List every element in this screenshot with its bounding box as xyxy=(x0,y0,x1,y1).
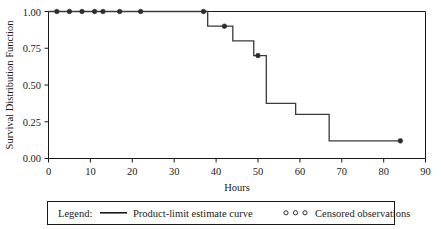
legend-label: Legend: xyxy=(58,208,92,219)
x-axis-ticks: 0 10 20 30 40 50 60 70 80 90 xyxy=(46,159,431,178)
censored-observation-marker xyxy=(222,24,227,29)
censored-observation-marker xyxy=(80,9,85,14)
x-tick-label-20: 20 xyxy=(127,166,138,177)
legend-censored-entry: Censored observations xyxy=(315,208,410,219)
x-tick-label-70: 70 xyxy=(337,166,348,177)
y-tick-label-075: 0.75 xyxy=(23,43,41,54)
censored-observation-marker xyxy=(117,9,122,14)
censored-observation-marker xyxy=(138,9,143,14)
legend-censor-circle-icon xyxy=(284,211,288,215)
y-axis-title: Survival Distribution Function xyxy=(4,20,15,150)
x-tick-label-30: 30 xyxy=(169,166,180,177)
x-tick-label-40: 40 xyxy=(211,166,222,177)
x-tick-label-10: 10 xyxy=(85,166,96,177)
x-tick-label-60: 60 xyxy=(295,166,306,177)
y-tick-label-100: 1.00 xyxy=(23,7,41,18)
censored-observation-marker xyxy=(101,9,106,14)
y-axis-ticks: 1.00 0.75 0.50 0.25 0.00 xyxy=(23,7,49,165)
censored-observation-markers xyxy=(55,9,403,143)
x-tick-label-50: 50 xyxy=(253,166,264,177)
legend-censor-circle-icon xyxy=(303,211,307,215)
y-tick-label-000: 0.00 xyxy=(23,153,41,164)
plot-frame xyxy=(49,12,426,159)
legend-censor-circle-icon xyxy=(293,211,297,215)
x-axis-title: Hours xyxy=(224,182,250,193)
legend-curve-entry: Product-limit estimate curve xyxy=(133,208,253,219)
censored-observation-marker xyxy=(55,9,60,14)
chart-canvas: 1.00 0.75 0.50 0.25 0.00 0 10 20 30 40 5… xyxy=(0,0,441,229)
survival-curve-figure: 1.00 0.75 0.50 0.25 0.00 0 10 20 30 40 5… xyxy=(0,0,441,229)
censored-observation-marker xyxy=(201,9,206,14)
chart-legend: Legend: Product-limit estimate curve Cen… xyxy=(48,202,411,225)
y-tick-label-025: 0.25 xyxy=(23,117,41,128)
censored-observation-marker xyxy=(256,53,261,58)
x-tick-label-90: 90 xyxy=(420,166,431,177)
censored-observation-marker xyxy=(67,9,72,14)
censored-observation-marker xyxy=(92,9,97,14)
product-limit-estimate-curve xyxy=(49,12,401,141)
x-tick-label-0: 0 xyxy=(46,166,51,177)
censored-observation-marker xyxy=(398,139,403,144)
x-tick-label-80: 80 xyxy=(378,166,389,177)
y-tick-label-050: 0.50 xyxy=(23,80,41,91)
